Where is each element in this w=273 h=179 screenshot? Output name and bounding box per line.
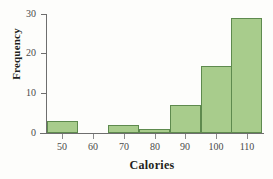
bar-80 [139, 129, 170, 133]
y-tick-label-30: 30 [16, 9, 36, 19]
bar-70 [108, 125, 139, 133]
plot-area: 30 20 10 0 50 60 70 80 90 100 110 Freq [0, 0, 273, 179]
x-tick-label-110: 110 [232, 141, 262, 152]
y-tick-10 [41, 93, 46, 94]
bar-100 [201, 66, 232, 133]
x-tick-60 [93, 134, 94, 139]
y-axis-line [46, 14, 47, 134]
bar-90 [170, 105, 201, 133]
x-axis-line [40, 133, 264, 134]
x-tick-90 [185, 134, 186, 139]
x-tick-50 [62, 134, 63, 139]
x-tick-80 [155, 134, 156, 139]
x-tick-label-90: 90 [170, 141, 200, 152]
bar-50 [47, 121, 78, 133]
bar-110 [231, 18, 262, 133]
x-tick-110 [247, 134, 248, 139]
y-axis-title: Frequency [10, 19, 22, 89]
y-tick-30 [41, 14, 46, 15]
x-axis-title: Calories [40, 158, 264, 173]
histogram-figure: 30 20 10 0 50 60 70 80 90 100 110 Freq [0, 0, 273, 179]
y-tick-label-10: 10 [16, 88, 36, 98]
x-tick-label-50: 50 [47, 141, 77, 152]
y-tick-20 [41, 53, 46, 54]
x-tick-label-60: 60 [78, 141, 108, 152]
x-tick-70 [124, 134, 125, 139]
y-tick-label-0: 0 [16, 128, 36, 138]
x-tick-label-80: 80 [140, 141, 170, 152]
x-tick-label-100: 100 [201, 141, 231, 152]
x-tick-label-70: 70 [109, 141, 139, 152]
y-tick-0 [41, 133, 46, 134]
x-tick-100 [216, 134, 217, 139]
